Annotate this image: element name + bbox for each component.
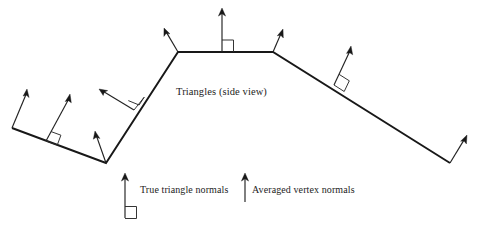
face-normal-1 — [46, 94, 71, 145]
vertex-normal-3-shaft — [166, 32, 178, 52]
vertex-normal-1-shaft — [12, 94, 26, 128]
legend-true-normals-icon-group — [121, 173, 136, 219]
triangles-side-view-polyline — [12, 52, 450, 163]
legend-averaged-normals-icon-group — [241, 173, 248, 202]
normals-diagram — [0, 0, 479, 236]
face-normal-2 — [99, 89, 144, 110]
face-normals-group — [46, 8, 353, 145]
label-triangles-side-view: Triangles (side view) — [176, 86, 267, 97]
face-normal-1-shaft — [46, 99, 69, 141]
vertex-normal-3-arrowhead — [164, 28, 170, 36]
legend-label-true-triangle-normals: True triangle normals — [140, 184, 228, 195]
vertex-normal-4-shaft — [273, 34, 281, 52]
vertex-normal-5-arrowhead — [461, 135, 467, 144]
vertex-normal-3 — [164, 28, 178, 52]
legend-markers-group — [121, 173, 248, 219]
face-normal-4-right-angle-icon — [334, 74, 349, 91]
vertex-normal-4 — [273, 29, 283, 52]
face-normal-3-right-angle-icon — [222, 40, 234, 52]
figure-root: Triangles (side view) True triangle norm… — [0, 0, 479, 236]
face-normal-4 — [334, 46, 353, 92]
face-normal-2-arrowhead — [99, 89, 108, 96]
vertex-normal-1-arrowhead — [23, 89, 29, 98]
vertex-normal-1 — [12, 89, 29, 128]
legend-label-averaged-vertex-normals: Averaged vertex normals — [252, 184, 355, 195]
face-normal-3 — [218, 8, 233, 52]
vertex-normal-5 — [450, 135, 467, 163]
legend-true-normal-right-angle-icon — [125, 207, 137, 219]
vertex-normal-2-shaft — [97, 136, 106, 163]
face-normal-4-arrowhead — [347, 46, 353, 55]
vertex-normal-5-shaft — [450, 140, 464, 163]
face-normal-1-arrowhead — [65, 94, 71, 103]
triangles-side-view-polyline-group — [12, 52, 450, 163]
